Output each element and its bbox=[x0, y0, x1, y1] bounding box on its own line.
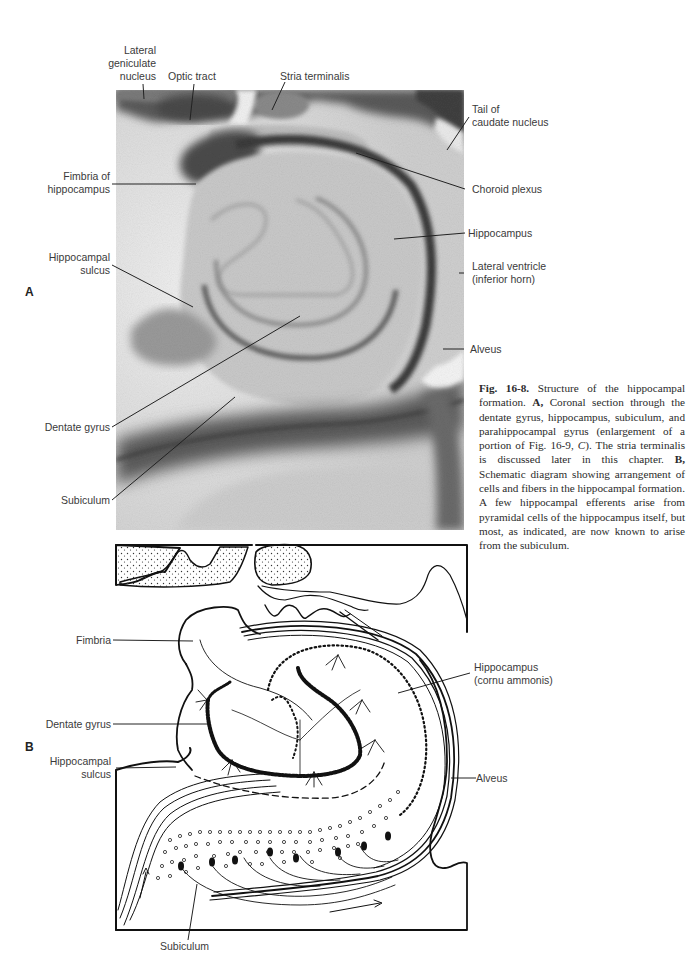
label-optic-tract: Optic tract bbox=[168, 70, 216, 83]
label-hippocampal-sulcus-a: Hippocampal sulcus bbox=[20, 251, 110, 277]
label-subiculum-a: Subiculum bbox=[10, 494, 110, 507]
figure-caption: Fig. 16-8. Structure of the hippocampal … bbox=[479, 381, 685, 553]
label-choroid-plexus: Choroid plexus bbox=[472, 183, 542, 196]
panel-letter-a: A bbox=[25, 285, 34, 299]
label-lateral-ventricle: Lateral ventricle (inferior horn) bbox=[472, 260, 546, 286]
label-fimbria-b: Fimbria bbox=[10, 634, 111, 647]
label-lateral-geniculate-nucleus: Lateral geniculate nucleus bbox=[106, 44, 156, 83]
label-hippocampal-sulcus-b: Hippocampal sulcus bbox=[10, 755, 111, 781]
caption-part-b-text: Schematic diagram showing arrangement of… bbox=[479, 468, 685, 551]
label-alveus-a: Alveus bbox=[470, 343, 502, 356]
caption-part-a-letter: A, bbox=[532, 396, 543, 408]
figure-number: Fig. 16-8. bbox=[479, 382, 529, 394]
label-hippocampus-a: Hippocampus bbox=[468, 227, 532, 240]
label-tail-of-caudate-nucleus: Tail of caudate nucleus bbox=[472, 103, 548, 129]
label-stria-terminalis: Stria terminalis bbox=[280, 70, 349, 83]
label-alveus-b: Alveus bbox=[476, 772, 508, 785]
label-dentate-gyrus-b: Dentate gyrus bbox=[10, 718, 111, 731]
label-hippocampus-cornu-ammonis: Hippocampus (cornu ammonis) bbox=[474, 661, 553, 687]
figure-page: Lateral geniculate nucleus Optic tract S… bbox=[0, 0, 688, 963]
panel-letter-b: B bbox=[25, 740, 34, 754]
label-dentate-gyrus-a: Dentate gyrus bbox=[10, 421, 110, 434]
caption-part-b-letter: B, bbox=[675, 453, 685, 465]
label-fimbria-of-hippocampus: Fimbria of hippocampus bbox=[20, 170, 110, 196]
label-subiculum-b: Subiculum bbox=[160, 940, 209, 953]
